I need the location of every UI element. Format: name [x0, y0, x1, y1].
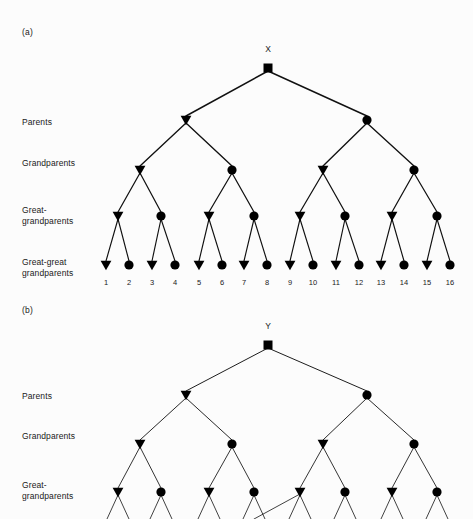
node-square-proband [264, 341, 273, 350]
edge-b-grandparents-3-right [414, 447, 437, 488]
edge-b-stub-6-left [381, 495, 392, 519]
node-triangle-male-b-grandparents-2 [318, 440, 329, 449]
edge-b-grandparents-1-left [209, 447, 232, 488]
edge-b-stub-5-left [334, 495, 345, 519]
edge-b-stub-7-right [437, 495, 448, 519]
edge-b-stub-2-right [209, 495, 220, 519]
node-triangle-male-b-great-grandparents-6 [387, 488, 398, 497]
edge-b-stub-1-right [161, 495, 172, 519]
node-triangle-male-b-grandparents-0 [135, 440, 146, 449]
edge-b-proband-0-left [186, 348, 268, 391]
edge-b-stub-3-left [243, 495, 254, 519]
node-circle-female-b-grandparents-3 [409, 439, 418, 448]
edge-b-stub-7-left [426, 495, 437, 519]
edge-b-grandparents-2-left [300, 447, 323, 488]
edge-b-stub-4-left [289, 495, 300, 519]
node-circle-female-b-great-grandparents-1 [156, 487, 165, 496]
edge-b-stub-1-left [150, 495, 161, 519]
edge-b-stub-5-right [345, 495, 356, 519]
edge-b-stub-2-left [198, 495, 209, 519]
node-triangle-male-b-great-grandparents-0 [113, 488, 124, 497]
node-triangle-male-b-parents-0 [181, 391, 192, 400]
node-circle-female-b-grandparents-1 [227, 439, 236, 448]
edge-b-grandparents-0-left [118, 447, 140, 488]
edge-b-grandparents-3-left [392, 447, 414, 488]
edge-b-grandparents-2-right [323, 447, 345, 488]
edge-b-stub-4-right [300, 495, 311, 519]
edge-b-grandparents-1-right [232, 447, 254, 488]
edge-b-proband-0-right [268, 348, 367, 391]
edge-b-stub-3-right [254, 495, 265, 519]
node-triangle-male-b-great-grandparents-2 [204, 488, 215, 497]
node-circle-female-b-great-grandparents-7 [432, 487, 441, 496]
figure-canvas: (a) Parents Grandparents Great- grandpar… [0, 0, 473, 519]
edge-b-parents-1-left [323, 398, 367, 440]
node-circle-female-b-great-grandparents-5 [340, 487, 349, 496]
edge-b-parents-0-left [140, 398, 186, 440]
edge-b-stub-6-right [392, 495, 403, 519]
edge-b-stub-0-left [107, 495, 118, 519]
node-circle-female-b-great-grandparents-3 [249, 487, 258, 496]
edge-b-parents-1-right [367, 398, 414, 440]
edge-b-parents-0-right [186, 398, 232, 440]
node-circle-female-b-parents-1 [362, 390, 371, 399]
panel-b-tree [0, 0, 473, 519]
edge-b-grandparents-0-right [140, 447, 161, 488]
edge-b-inbreeding-loop [254, 494, 300, 519]
edge-b-stub-0-right [118, 495, 129, 519]
